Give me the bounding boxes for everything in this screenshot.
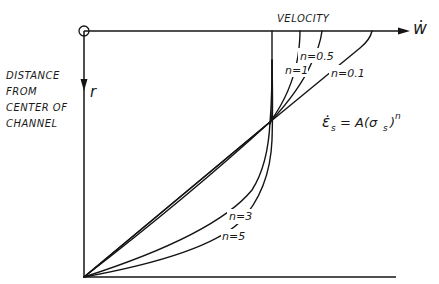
velocity-axis-label: VELOCITY bbox=[277, 13, 330, 24]
curve-n-3 bbox=[84, 60, 272, 277]
equation-middle-subscript: s bbox=[383, 123, 388, 133]
velocity-profile-diagram: VELOCITY ẇ r DISTANCE FROM CENTER OF CHA… bbox=[0, 0, 439, 284]
diagram-canvas: VELOCITY ẇ r DISTANCE FROM CENTER OF CHA… bbox=[0, 0, 439, 284]
curve-label-n-5: n=5 bbox=[222, 230, 245, 243]
distance-label-line-4: CHANNEL bbox=[6, 118, 58, 129]
equation-exponent: n bbox=[395, 111, 401, 121]
curve-n-5 bbox=[84, 60, 273, 277]
curve-label-n-0.1: n=0.1 bbox=[331, 67, 365, 80]
equation-lhs-subscript: s bbox=[331, 123, 336, 133]
distance-symbol: r bbox=[90, 83, 97, 101]
distance-label-line-2: FROM bbox=[6, 86, 37, 97]
distance-label-line-1: DISTANCE bbox=[6, 70, 60, 81]
velocity-axis-arrow-icon bbox=[398, 28, 410, 35]
flow-law-equation: ε̇ s = A(σ s ) n bbox=[322, 111, 401, 133]
equation-middle: = A(σ bbox=[340, 115, 378, 130]
curve-label-n-1: n=1 bbox=[285, 64, 308, 77]
velocity-symbol: ẇ bbox=[413, 18, 427, 38]
curve-label-n-3: n=3 bbox=[229, 210, 252, 223]
distance-label-line-3: CENTER OF bbox=[6, 102, 67, 113]
curve-n-1 bbox=[84, 31, 300, 277]
equation-lhs: ε̇ bbox=[322, 113, 330, 131]
distance-axis-arrow-icon bbox=[81, 79, 88, 91]
curve-label-n-0.5: n=0.5 bbox=[300, 50, 334, 63]
